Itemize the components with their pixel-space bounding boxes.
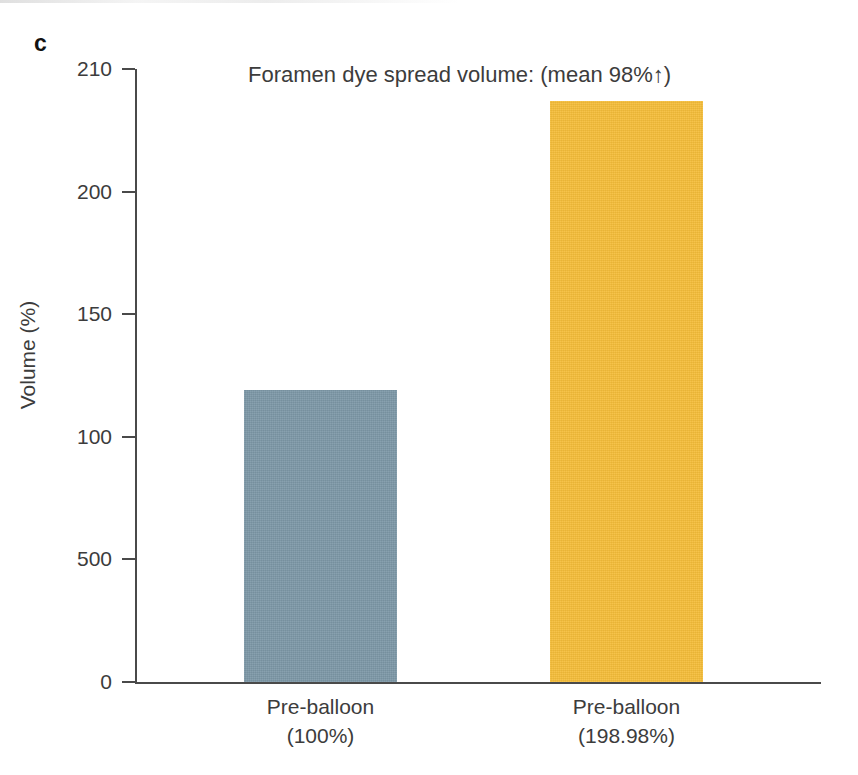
y-tick-label: 210 <box>0 57 112 81</box>
x-category-label: Pre-balloon(198.98%) <box>497 692 757 750</box>
bar-pre-balloon-100 <box>244 390 397 682</box>
x-axis-line <box>135 682 821 684</box>
y-tick-label: 0 <box>0 670 112 694</box>
y-tick-mark <box>122 313 135 315</box>
bar-pre-balloon-198-98 <box>550 101 703 682</box>
plot-area <box>135 69 821 682</box>
x-category-label: Pre-balloon(100%) <box>191 692 451 750</box>
y-tick-mark <box>122 558 135 560</box>
x-category-value: (198.98%) <box>497 721 757 750</box>
scan-artifact <box>0 0 460 3</box>
x-category-value: (100%) <box>191 721 451 750</box>
y-tick-mark <box>122 681 135 683</box>
panel-label: c <box>34 30 47 57</box>
figure-panel-c: c Foramen dye spread volume: (mean 98%↑)… <box>0 0 858 775</box>
y-tick-label: 100 <box>0 425 112 449</box>
y-tick-mark <box>122 191 135 193</box>
x-category-name: Pre-balloon <box>267 695 374 718</box>
y-tick-label: 200 <box>0 180 112 204</box>
y-axis-title: Volume (%) <box>16 275 40 435</box>
x-category-name: Pre-balloon <box>573 695 680 718</box>
y-tick-label: 150 <box>0 302 112 326</box>
y-tick-label: 500 <box>0 547 112 571</box>
y-tick-mark <box>122 436 135 438</box>
y-tick-mark <box>122 68 135 70</box>
